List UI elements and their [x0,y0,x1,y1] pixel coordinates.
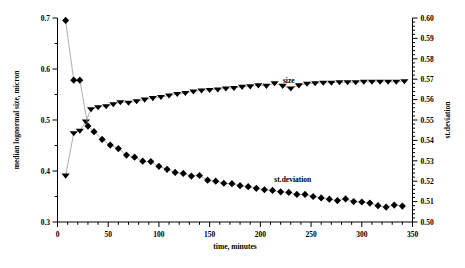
data-point-marker-diamond [220,180,227,187]
x-axis-tick-label: 250 [305,230,317,239]
series-connector-line [66,20,403,207]
data-point-marker-diamond [326,196,333,203]
y-axis-right-tick-label: 0.51 [421,197,434,206]
y-axis-left-tick-label: 0.6 [41,65,51,74]
data-point-marker-diamond [155,163,162,170]
data-point-marker-triangle [76,129,84,134]
data-point-marker-diamond [212,178,219,185]
data-point-marker-triangle [62,174,70,179]
data-point-marker-diamond [269,187,276,194]
chart-container: 050100150200250300350time, minutes0.30.4… [0,0,465,268]
data-point-marker-triangle [295,83,303,88]
x-axis-tick-label: 350 [407,230,419,239]
data-point-marker-triangle [87,107,95,112]
y-axis-right-tick-label: 0.57 [421,75,434,84]
series-st-deviation [62,17,406,211]
y-axis-left-title: median lognormal size, micron [12,70,21,169]
y-axis-right-tick-label: 0.50 [421,218,434,227]
data-point-marker-diamond [245,183,252,190]
data-point-marker-triangle [327,81,335,86]
data-point-marker-diamond [180,170,187,177]
data-point-marker-diamond [228,180,235,187]
data-point-marker-diamond [277,188,284,195]
data-point-marker-diamond [147,158,154,165]
y-axis-right-tick-label: 0.54 [421,136,434,145]
series-connector-line [66,81,405,175]
data-point-marker-triangle [368,80,376,85]
series-size [62,79,409,178]
data-point-marker-diamond [253,185,260,192]
y-axis-right-tick-label: 0.58 [421,55,434,64]
series-annotation-st-deviation: st.deviation [274,175,312,184]
data-point-marker-diamond [358,198,365,205]
data-point-marker-triangle [124,101,132,106]
data-point-marker-diamond [62,17,69,24]
y-axis-right-tick-label: 0.59 [421,34,434,43]
data-point-marker-diamond [172,169,179,176]
data-point-marker-diamond [123,151,130,158]
data-point-marker-diamond [196,172,203,179]
data-point-marker-triangle [392,80,400,85]
data-point-marker-diamond [261,186,268,193]
y-axis-right-tick-label: 0.52 [421,177,434,186]
x-axis-tick-label: 150 [204,230,216,239]
data-point-marker-diamond [375,202,382,209]
y-axis-left-tick-label: 0.4 [41,167,51,176]
data-point-marker-diamond [342,195,349,202]
series-annotation-size: size [283,76,295,85]
y-axis-right-tick-label: 0.53 [421,157,434,166]
data-point-marker-diamond [366,199,373,206]
data-point-marker-triangle [376,80,384,85]
data-point-marker-triangle [287,86,295,91]
y-axis-right-tick-label: 0.55 [421,116,434,125]
data-point-marker-triangle [262,84,270,89]
x-axis-tick-label: 100 [153,230,165,239]
data-point-marker-diamond [293,191,300,198]
data-point-marker-diamond [131,154,138,161]
data-point-marker-diamond [164,166,171,173]
data-point-marker-diamond [391,201,398,208]
data-point-marker-diamond [350,198,357,205]
x-axis-title: time, minutes [213,242,256,251]
data-point-marker-diamond [139,158,146,165]
data-point-marker-diamond [334,197,341,204]
data-point-marker-diamond [204,177,211,184]
data-point-marker-triangle [70,131,78,136]
data-point-marker-diamond [285,189,292,196]
data-point-marker-diamond [115,145,122,152]
data-point-marker-diamond [188,173,195,180]
data-point-marker-triangle [343,80,351,85]
y-axis-right-title: st.deviation [443,101,452,139]
x-axis-tick-label: 50 [104,230,112,239]
data-point-marker-diamond [76,77,83,84]
data-point-marker-diamond [310,193,317,200]
data-point-marker-diamond [107,141,114,148]
y-axis-left-tick-label: 0.3 [41,218,51,227]
y-axis-right-tick-label: 0.60 [421,14,434,23]
x-axis-tick-label: 200 [255,230,267,239]
chart-canvas: 050100150200250300350time, minutes0.30.4… [0,0,465,268]
data-point-marker-diamond [399,202,406,209]
data-point-marker-diamond [383,204,390,211]
y-axis-right-tick-label: 0.56 [421,95,434,104]
y-axis-left-tick-label: 0.5 [41,116,51,125]
data-point-marker-triangle [352,80,360,85]
data-point-marker-diamond [237,182,244,189]
data-point-marker-diamond [301,191,308,198]
data-point-marker-triangle [384,80,392,85]
data-point-marker-diamond [318,194,325,201]
data-point-marker-diamond [70,77,77,84]
x-axis-tick-label: 300 [356,230,368,239]
x-axis-tick-label: 0 [56,230,60,239]
y-axis-left-tick-label: 0.7 [41,14,51,23]
